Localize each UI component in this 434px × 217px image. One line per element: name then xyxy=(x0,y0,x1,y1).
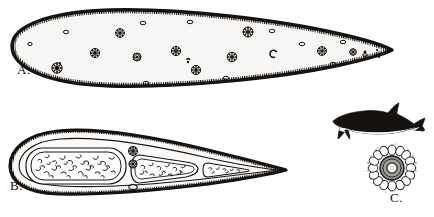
panel-c-central-lumen xyxy=(387,163,397,173)
panel-b-ventral-vesicle xyxy=(129,185,137,190)
panel-b-compartment-1 xyxy=(26,148,126,184)
panel-a-figure xyxy=(12,10,392,86)
panel-label-b: B. xyxy=(10,178,23,194)
illustration-plate: A. B. C. xyxy=(0,0,434,217)
panel-a-body-interior xyxy=(12,10,392,86)
panel-label-a: A. xyxy=(17,62,31,78)
plate-artwork xyxy=(0,0,434,217)
panel-b-figure xyxy=(10,130,286,194)
panel-c-figure xyxy=(367,143,417,192)
host-dolphin-silhouette xyxy=(331,103,425,140)
panel-label-c: C. xyxy=(390,190,403,206)
